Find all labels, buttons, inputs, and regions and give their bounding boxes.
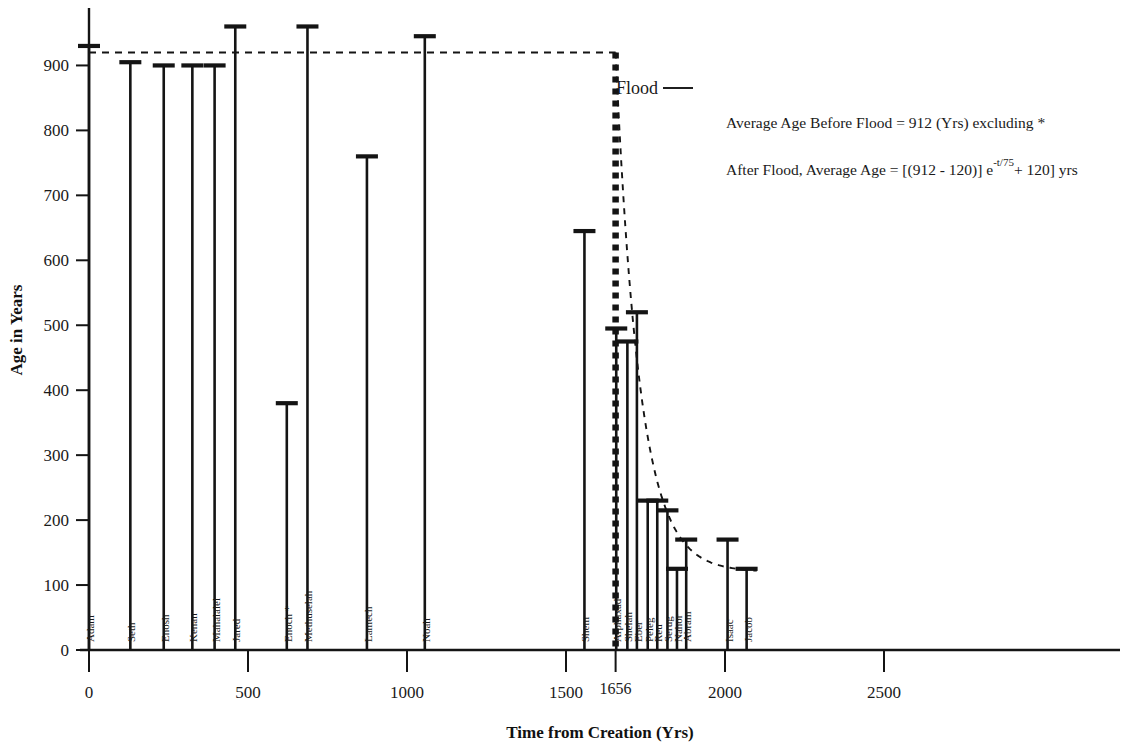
bar bbox=[296, 26, 318, 650]
bar-label: Jacob bbox=[742, 616, 754, 642]
y-tick-label: 600 bbox=[44, 251, 70, 270]
bar-label: Lamech bbox=[362, 606, 374, 642]
bar-label: Seth bbox=[125, 622, 137, 642]
bar bbox=[414, 36, 436, 650]
bar bbox=[224, 26, 246, 650]
x-axis-title: Time from Creation (Yrs) bbox=[506, 723, 693, 742]
reference-lines bbox=[89, 52, 616, 650]
bar bbox=[153, 65, 175, 650]
patriarch-lifespan-chart: 0100200300400500600700800900 05001000150… bbox=[0, 0, 1136, 746]
bar-label: Mahalalel bbox=[210, 598, 222, 642]
bar-label: Enosh bbox=[159, 614, 171, 642]
x-tick-label: 1000 bbox=[390, 683, 424, 702]
bar bbox=[119, 62, 141, 650]
x-axis-ticks: 05001000150020002500 bbox=[85, 650, 901, 702]
bar-label: Abram bbox=[681, 611, 693, 642]
bar bbox=[204, 65, 226, 650]
annotation-exponent: -t/75 bbox=[993, 156, 1014, 168]
y-tick-label: 200 bbox=[44, 511, 70, 530]
annotation-average-before-flood: Average Age Before Flood = 912 (Yrs) exc… bbox=[726, 114, 1045, 132]
bar bbox=[181, 65, 203, 650]
bar-group bbox=[78, 26, 758, 650]
y-axis-title: Age in Years bbox=[7, 284, 26, 375]
annotation-after-flood: After Flood, Average Age = [(912 - 120)]… bbox=[726, 156, 1078, 179]
y-tick-label: 0 bbox=[61, 641, 70, 660]
x-tick-label: 1500 bbox=[549, 683, 583, 702]
bar-label: Shem bbox=[579, 617, 591, 643]
y-tick-label: 700 bbox=[44, 186, 70, 205]
bar-label: Isaac bbox=[723, 619, 735, 642]
flood-x-tick-label: 1656 bbox=[600, 680, 632, 697]
annotation-after-flood-part2: + 120] yrs bbox=[1014, 161, 1078, 178]
y-tick-label: 400 bbox=[44, 381, 70, 400]
bar bbox=[573, 231, 595, 650]
bar-label: Noah bbox=[420, 618, 432, 642]
bar-label-group: AdamSethEnoshKenanMahalalelJaredEnoch *M… bbox=[84, 590, 754, 642]
bar-label: Adam bbox=[84, 615, 96, 642]
x-tick-label: 0 bbox=[85, 683, 94, 702]
bar-label: Kenan bbox=[187, 613, 199, 642]
bar bbox=[356, 156, 378, 650]
chart-container: 0100200300400500600700800900 05001000150… bbox=[0, 0, 1136, 746]
x-tick-label: 2000 bbox=[708, 683, 742, 702]
y-axis-ticks: 0100200300400500600700800900 bbox=[44, 56, 90, 660]
x-tick-label: 2500 bbox=[867, 683, 901, 702]
bar bbox=[78, 46, 100, 650]
bar-label: Methuselah bbox=[302, 590, 314, 642]
annotation-after-flood-part1: After Flood, Average Age = [(912 - 120)]… bbox=[726, 161, 993, 179]
y-tick-label: 300 bbox=[44, 446, 70, 465]
bar-label: Enoch * bbox=[282, 606, 294, 642]
y-tick-label: 500 bbox=[44, 316, 70, 335]
bar bbox=[626, 312, 648, 650]
y-tick-label: 100 bbox=[44, 576, 70, 595]
y-tick-label: 900 bbox=[44, 56, 70, 75]
bar-label: Jared bbox=[230, 618, 242, 642]
x-tick-label: 500 bbox=[235, 683, 261, 702]
flood-annotation-label: Flood bbox=[616, 78, 658, 98]
y-tick-label: 800 bbox=[44, 121, 70, 140]
